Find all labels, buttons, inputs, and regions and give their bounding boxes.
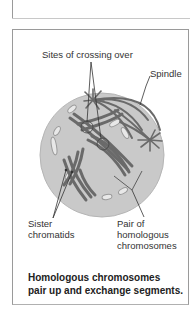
label-sister-chromatids: Sister chromatids <box>28 218 74 240</box>
caption-line1: Homologous chromosomes <box>28 271 183 284</box>
label-spindle: Spindle <box>150 68 182 79</box>
label-homologous-line2: homologous <box>117 229 177 240</box>
label-homologous-line3: chromosomes <box>117 240 177 251</box>
label-homologous-line1: Pair of <box>117 218 177 229</box>
label-sister-line2: chromatids <box>28 229 74 240</box>
meiosis-diagram <box>0 0 190 309</box>
label-sister-line1: Sister <box>28 218 74 229</box>
label-homologous-pair: Pair of homologous chromosomes <box>117 218 177 251</box>
figure-caption: Homologous chromosomes pair up and excha… <box>28 271 183 297</box>
caption-line2: pair up and exchange segments. <box>28 284 183 297</box>
label-crossing-over: Sites of crossing over <box>42 49 133 60</box>
